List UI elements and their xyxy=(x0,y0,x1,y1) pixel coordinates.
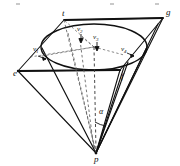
vertex-label-t: t xyxy=(62,9,65,18)
apex-edges xyxy=(18,18,163,153)
vertex-label-e: e xyxy=(13,69,17,78)
vector-sub-v1: 1 xyxy=(36,49,39,54)
velocity-arrow-v3 xyxy=(95,42,99,51)
vertex-label-f: f xyxy=(121,72,124,81)
vector-sub-v3: 3 xyxy=(96,37,99,42)
velocity-arrow-v2 xyxy=(79,34,83,43)
cone-diagram-svg xyxy=(0,0,180,166)
vector-label-v4: v4 xyxy=(121,46,127,54)
vertex-label-p: p xyxy=(94,155,99,164)
vector-label-v2: v2 xyxy=(77,26,83,34)
cone-axis-dashed xyxy=(94,47,96,151)
vector-sub-v4: 4 xyxy=(124,49,127,54)
geometry-figure: e t g f p v1 v2 v3 v4 α xyxy=(0,0,180,166)
angle-label-alpha: α xyxy=(99,108,103,116)
vertex-label-g: g xyxy=(166,8,171,17)
vertex-point-e xyxy=(17,70,19,72)
vector-sub-v2: 2 xyxy=(80,29,83,34)
vector-label-v3: v3 xyxy=(93,34,99,42)
vector-label-v1: v1 xyxy=(33,46,39,54)
